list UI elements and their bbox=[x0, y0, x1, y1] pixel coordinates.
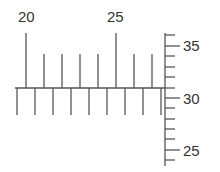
horizontal-ruler bbox=[15, 33, 165, 115]
h-label-25: 25 bbox=[107, 8, 124, 25]
vertical-ruler bbox=[165, 33, 180, 166]
v-label-30: 30 bbox=[183, 90, 200, 107]
h-label-20: 20 bbox=[18, 8, 35, 25]
v-label-35: 35 bbox=[183, 37, 200, 54]
v-label-25: 25 bbox=[183, 142, 200, 159]
ruler-diagram: 20 25 35 30 25 bbox=[0, 0, 220, 172]
